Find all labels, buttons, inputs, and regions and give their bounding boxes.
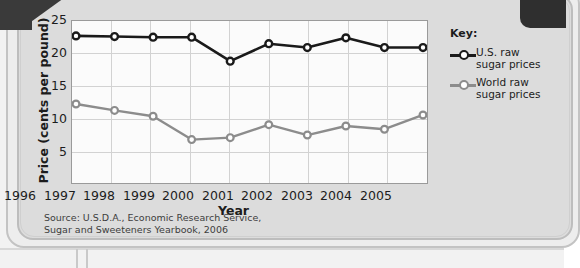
- data-point: [188, 34, 195, 41]
- data-point: [227, 58, 234, 65]
- legend-marker-us-icon: [450, 48, 476, 62]
- legend-label-us-line1: U.S. raw: [476, 47, 540, 59]
- data-point: [227, 134, 234, 141]
- data-point: [304, 44, 311, 51]
- data-point: [304, 132, 311, 139]
- data-point: [342, 123, 349, 130]
- legend-label-world: World raw sugar prices: [476, 77, 540, 100]
- legend-label-world-line2: sugar prices: [476, 89, 540, 101]
- y-axis-tick-labels: 25 20 15 10 5: [33, 20, 67, 184]
- data-point: [420, 112, 427, 119]
- data-point: [342, 34, 349, 41]
- legend-marker-world-icon: [450, 78, 476, 92]
- data-point: [381, 44, 388, 51]
- y-tick-10: 10: [37, 111, 67, 126]
- legend-item-world-raw-sugar: World raw sugar prices: [450, 77, 554, 100]
- x-tick-2005: 2005: [353, 188, 399, 203]
- y-tick-15: 15: [37, 78, 67, 93]
- legend-label-us-line2: sugar prices: [476, 59, 540, 71]
- data-point: [73, 101, 80, 108]
- series-world-raw-sugar: [73, 101, 427, 143]
- series-us-raw-sugar: [73, 33, 427, 65]
- series-plot: [72, 21, 427, 183]
- data-point: [73, 33, 80, 40]
- legend-title: Key:: [450, 27, 554, 40]
- chart-legend: Key: U.S. raw sugar prices World raw: [450, 27, 554, 107]
- legend-label-us: U.S. raw sugar prices: [476, 47, 540, 70]
- data-point: [188, 136, 195, 143]
- data-point: [111, 33, 118, 40]
- source-line-2: Sugar and Sweeteners Yearbook, 2006: [44, 224, 264, 236]
- data-point: [150, 34, 157, 41]
- legend-label-world-line1: World raw: [476, 77, 540, 89]
- line-chart: Price (cents per pound) 25 20 15 10 5 19…: [0, 0, 564, 248]
- legend-item-us-raw-sugar: U.S. raw sugar prices: [450, 47, 554, 70]
- data-point: [150, 113, 157, 120]
- page-spine-tick: [76, 249, 88, 268]
- data-point: [265, 121, 272, 128]
- source-line-1: Source: U.S.D.A., Economic Research Serv…: [44, 212, 264, 224]
- data-point: [265, 40, 272, 47]
- y-tick-20: 20: [37, 45, 67, 60]
- data-point: [111, 107, 118, 114]
- y-tick-5: 5: [37, 144, 67, 159]
- plot-area: [71, 20, 428, 184]
- data-point: [420, 44, 427, 51]
- source-note: Source: U.S.D.A., Economic Research Serv…: [44, 212, 264, 236]
- y-tick-25: 25: [37, 12, 67, 27]
- data-point: [381, 126, 388, 133]
